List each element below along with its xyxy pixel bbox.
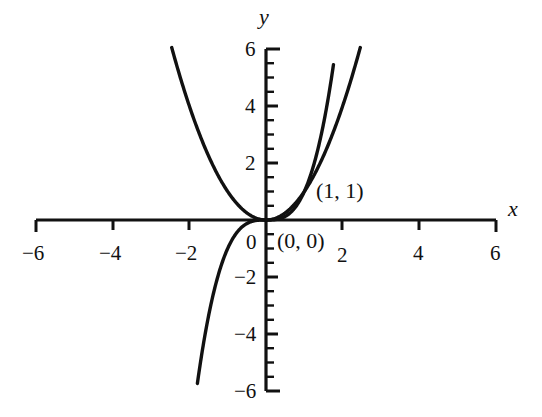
x-tick-label-pos6: 6 <box>490 243 501 264</box>
y-tick-label-pos4: 4 <box>245 96 256 117</box>
x-tick-label-neg6: −6 <box>22 243 44 264</box>
annotation-origin-point: (0, 0) <box>277 230 325 252</box>
y-tick-label-pos6: 6 <box>245 39 256 60</box>
x-tick-label-pos4: 4 <box>413 243 424 264</box>
x-axis-label: x <box>508 198 518 220</box>
graph-figure: x y −6 −4 −2 2 4 6 6 4 2 0 −2 −4 −6 (1, … <box>0 0 542 417</box>
y-tick-label-zero: 0 <box>246 232 257 253</box>
annotation-unit-point: (1, 1) <box>316 180 364 202</box>
y-tick-label-neg2: −2 <box>234 267 256 288</box>
y-axis-label: y <box>259 6 269 28</box>
x-tick-label-pos2: 2 <box>337 245 348 266</box>
coordinate-plot <box>0 0 542 417</box>
y-tick-label-neg4: −4 <box>234 324 256 345</box>
y-tick-label-pos2: 2 <box>245 153 256 174</box>
y-tick-label-neg6: −6 <box>234 381 256 402</box>
x-tick-label-neg4: −4 <box>99 243 121 264</box>
x-tick-label-neg2: −2 <box>175 243 197 264</box>
